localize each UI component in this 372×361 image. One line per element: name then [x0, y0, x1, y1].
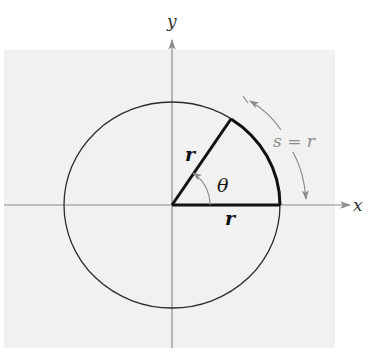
arc-relation-label: s = r — [273, 131, 316, 151]
angle-label: θ — [217, 174, 229, 196]
x-axis-label: x — [353, 195, 363, 215]
background-panel — [4, 50, 335, 348]
y-axis-label: y — [166, 11, 177, 31]
radian-diagram: y x r r θ s = r — [0, 0, 372, 361]
